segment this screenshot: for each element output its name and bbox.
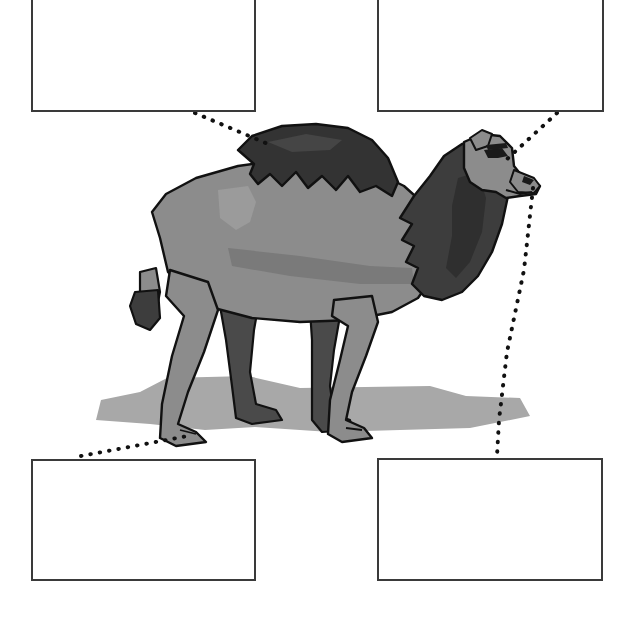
label-box-bottom-left[interactable] xyxy=(31,459,256,581)
tail-tuft xyxy=(130,290,160,330)
label-box-bottom-right[interactable] xyxy=(377,458,603,581)
label-box-top-left[interactable] xyxy=(31,0,256,112)
label-box-top-right[interactable] xyxy=(377,0,604,112)
leader-line-head xyxy=(506,113,557,160)
leader-line-hump xyxy=(195,113,268,144)
worksheet-sheet xyxy=(0,0,636,624)
